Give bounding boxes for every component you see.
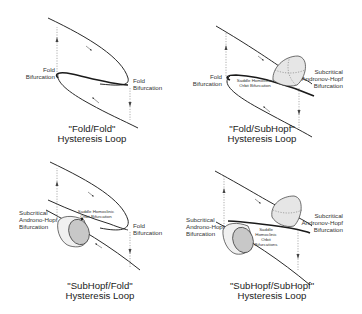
flow-arrow-lower <box>96 244 102 248</box>
jump-down-arrow <box>298 110 301 115</box>
jump-up-arrow <box>225 45 228 50</box>
label-right-1: Fold <box>133 222 146 229</box>
panel-subtitle: Hysteresis Loop <box>238 290 307 301</box>
panel-subtitle: Hysteresis Loop <box>58 133 127 144</box>
jump-up-arrow <box>56 181 59 186</box>
panel-fold-subhopf: Fold Bifurcation Saddle Homoclinic Orbit… <box>193 26 344 144</box>
label-left-2: Bifurcation <box>193 80 223 87</box>
label-right-3: Bifurcation <box>314 82 344 89</box>
jump-down-arrow <box>297 254 300 259</box>
flow-arrow-upper <box>258 56 263 60</box>
label-left-2: Bifurcation <box>26 73 56 80</box>
upper-branch <box>48 18 128 85</box>
panel-subhopf-subhopf: Subcritical Androno-Hopf Bifurcation Sad… <box>186 171 344 301</box>
bifurcation-diagram: Fold Bifurcation Fold Bifurcation "Fold/… <box>0 0 362 314</box>
label-left-2: Androno-Hopf <box>186 223 225 230</box>
jump-up-arrow <box>223 188 226 193</box>
label-left-1: Subcritical <box>186 216 215 223</box>
label-right-2: Andronov-Hopf <box>301 219 343 226</box>
label-right-2: Bifurcation <box>133 229 163 236</box>
panel-subtitle: Hysteresis Loop <box>66 290 135 301</box>
label-right-3: Bifurcation <box>314 226 344 233</box>
flow-arrow-upper <box>88 192 93 196</box>
label-middle-4: Bifurcations <box>255 242 279 247</box>
label-right-2: Bifurcation <box>133 84 163 91</box>
middle-branch <box>57 73 128 85</box>
label-left-1: Fold <box>210 73 223 80</box>
label-left-3: Bifurcation <box>186 230 216 237</box>
flow-arrow-upper <box>255 199 260 203</box>
flow-arrow-lower <box>93 98 99 103</box>
panel-fold-fold: Fold Bifurcation Fold Bifurcation "Fold/… <box>26 18 163 144</box>
jump-down-arrow <box>129 249 132 254</box>
jump-down-arrow <box>129 102 132 107</box>
flow-arrow-upper <box>86 46 91 50</box>
panel-subtitle: Hysteresis Loop <box>228 133 297 144</box>
lower-branch <box>58 74 138 128</box>
label-middle-2: Orbit Bifurcation <box>239 83 271 88</box>
label-left-1: Fold <box>43 66 56 73</box>
label-middle-2: Orbit Bifurcation <box>80 214 112 219</box>
label-left-2: Androno-Hopf <box>19 216 58 223</box>
label-left-1: Subcritical <box>19 209 48 216</box>
panel-subhopf-fold: Subcritical Androno-Hopf Bifurcation Sad… <box>19 162 163 301</box>
label-left-3: Bifurcation <box>19 223 49 230</box>
label-right-2: Andronov-Hopf <box>301 75 343 82</box>
label-right-1: Subcritical <box>314 68 343 75</box>
jump-up-arrow <box>56 37 59 42</box>
label-right-1: Subcritical <box>314 212 343 219</box>
label-right-1: Fold <box>133 77 146 84</box>
